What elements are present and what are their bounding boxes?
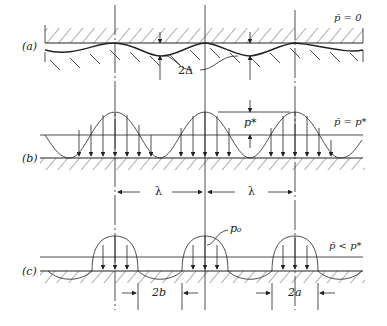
- panel-b-label: (b): [22, 152, 38, 165]
- panel-b-peak-label: p*: [244, 116, 257, 129]
- panel-c-pressure: [40, 230, 365, 310]
- panel-a-label: (a): [22, 40, 37, 53]
- panel-c-condition: p̄ < p*: [329, 240, 362, 251]
- wavelength-right: λ: [248, 185, 255, 198]
- panel-a-dimension: 2Δ: [178, 64, 193, 77]
- gap-width-label: 2b: [152, 286, 166, 299]
- panel-a-surfaces: [45, 25, 363, 80]
- panel-c-label: (c): [22, 265, 37, 278]
- panel-b-pressure: [40, 100, 365, 192]
- contact-wavy-surface-diagram: (a) p̄ = 0 2Δ (b) p̄ = p* p* λ λ (c) p̄ …: [0, 0, 387, 326]
- contact-width-label: 2a: [288, 286, 302, 299]
- panel-a-condition: p̄ = 0: [334, 12, 362, 23]
- panel-b-condition: p̄ = p*: [334, 116, 367, 127]
- pressure-label: p₀: [230, 222, 241, 235]
- diagram-graphics: [0, 0, 387, 326]
- wavelength-left: λ: [155, 185, 162, 198]
